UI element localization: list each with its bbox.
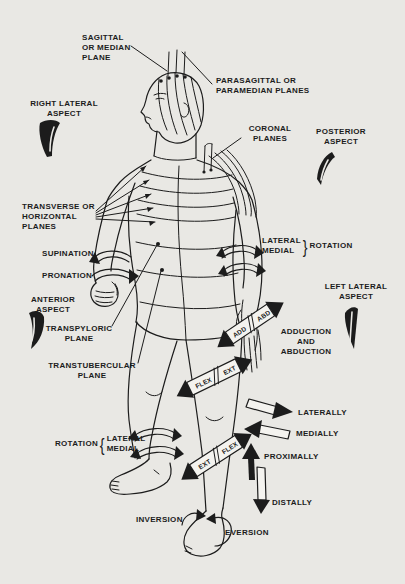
midline	[178, 166, 186, 340]
inversion-label: INVERSION	[136, 515, 183, 525]
leg-rotation-brace: {	[100, 435, 105, 454]
anterior-aspect-label: ANTERIOR ASPECT	[20, 295, 86, 315]
pronation-label: PRONATION	[42, 271, 92, 281]
transverse-planes-label: TRANSVERSE OR HORIZONTAL PLANES	[22, 202, 95, 232]
posterior-aspect-icon	[317, 152, 335, 185]
right-lateral-aspect-label: RIGHT LATERAL ASPECT	[14, 99, 114, 119]
eversion-label: EVERSION	[225, 528, 269, 538]
leg-rotation-label: ROTATION	[55, 439, 98, 449]
laterally-arrow	[246, 399, 293, 419]
distally-label: DISTALLY	[272, 498, 312, 508]
distally-arrow	[253, 467, 270, 514]
arm-rotation-brace: }	[303, 237, 308, 256]
right-arm	[91, 282, 118, 306]
arm-rotation-lateral-label: LATERAL	[262, 236, 301, 246]
medially-label: MEDIALLY	[296, 429, 339, 439]
laterally-label: LATERALLY	[298, 408, 347, 418]
supination-arrow	[89, 251, 131, 264]
leg-rotation-lateral-label: LATERAL	[107, 434, 146, 444]
plane-indicator-lines	[168, 50, 185, 76]
arm-rotation-arrows	[216, 245, 266, 277]
transverse-plane-lines	[136, 172, 240, 309]
thigh-flex-ext-band: FLEX EXT	[172, 350, 256, 405]
head	[141, 50, 203, 143]
adduction-abduction-label: ADDUCTION AND ABDUCTION	[272, 327, 340, 357]
transtubercular-plane-label: TRANSTUBERCULAR PLANE	[36, 361, 148, 381]
supination-label: SUPINATION	[42, 249, 94, 259]
sagittal-plane-lines	[158, 73, 201, 135]
pronation-arrow	[92, 269, 139, 284]
medially-arrow	[244, 420, 290, 439]
anatomical-planes-diagram: ADD ABD FLEX EXT EXT FLEX SAGITTAL OR ME…	[0, 0, 405, 584]
arm-rotation-medial-label: MEDIAL	[262, 246, 301, 256]
coronal-shoulder-lines	[209, 150, 256, 217]
left-lateral-aspect-label: LEFT LATERAL ASPECT	[316, 282, 396, 302]
posterior-aspect-label: POSTERIOR ASPECT	[303, 127, 379, 147]
transpyloric-plane-label: TRANSPYLORIC PLANE	[36, 324, 122, 344]
coronal-planes-label: CORONAL PLANES	[240, 124, 300, 144]
arm-rotation-label-group: LATERAL MEDIAL } ROTATION	[262, 236, 353, 256]
leg-rotation-medial-label: MEDIAL	[107, 444, 146, 454]
leg-rotation-label-group: ROTATION { LATERAL MEDIAL	[55, 434, 146, 454]
parasagittal-label: PARASAGITTAL OR PARAMEDIAN PLANES	[216, 76, 309, 96]
arm-rotation-label: ROTATION	[310, 241, 353, 251]
proximally-label: PROXIMALLY	[264, 452, 319, 462]
sagittal-plane-label: SAGITTAL OR MEDIAN PLANE	[82, 33, 130, 63]
